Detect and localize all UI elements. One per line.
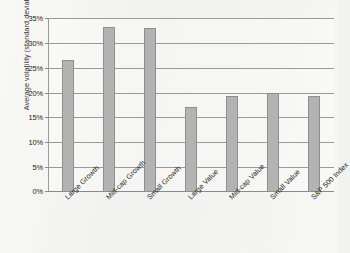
bar — [226, 96, 238, 192]
gridline-25: 25% — [48, 68, 334, 69]
y-tick-label: 15% — [29, 113, 44, 122]
y-tick-label: 20% — [29, 88, 44, 97]
x-axis-category-labels: Large GrowthMid-cap GrowthSmall GrowthLa… — [48, 193, 334, 253]
bar — [62, 60, 74, 192]
bar — [267, 93, 279, 192]
bar — [103, 27, 115, 192]
gridline-35: 35% — [48, 18, 334, 19]
y-tick-mark — [45, 191, 48, 192]
gridline-30: 30% — [48, 43, 334, 44]
y-tick-mark — [45, 167, 48, 168]
chart-title — [0, 0, 338, 4]
y-tick-mark — [45, 142, 48, 143]
gridline-20: 20% — [48, 93, 334, 94]
y-tick-mark — [45, 68, 48, 69]
bar — [185, 107, 197, 192]
y-tick-label: 10% — [29, 138, 44, 147]
y-tick-label: 0% — [33, 187, 43, 196]
bar — [144, 28, 156, 192]
bar — [308, 96, 320, 192]
y-axis-spine — [48, 18, 49, 192]
y-tick-mark — [45, 93, 48, 94]
y-tick-mark — [45, 18, 48, 19]
y-tick-label: 35% — [29, 14, 44, 23]
y-tick-label: 30% — [29, 38, 44, 47]
y-tick-mark — [45, 43, 48, 44]
y-tick-label: 5% — [33, 163, 43, 172]
y-tick-label: 25% — [29, 63, 44, 72]
y-tick-mark — [45, 117, 48, 118]
